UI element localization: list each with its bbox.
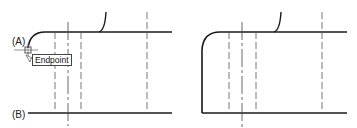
label-b: (B) (12, 110, 25, 120)
right-panel (202, 12, 347, 127)
left-panel (14, 12, 172, 126)
hook-curve-right (274, 12, 281, 32)
endpoint-tooltip: Endpoint (32, 54, 72, 66)
fillet-curve-a (28, 32, 45, 48)
hook-curve-left (99, 12, 106, 32)
extended-curve (202, 32, 220, 113)
label-a: (A) (12, 37, 25, 47)
